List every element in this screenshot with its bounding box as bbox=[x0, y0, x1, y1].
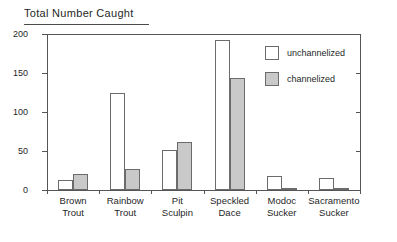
bar-channelized-3 bbox=[230, 78, 245, 190]
y-axis-tick-group: 050100150200 bbox=[0, 0, 47, 242]
y-tick-label-50: 50 bbox=[8, 147, 28, 156]
legend-swatch-unchannelized bbox=[265, 46, 279, 60]
bar-channelized-2 bbox=[177, 142, 192, 190]
bar-group-1 bbox=[99, 34, 151, 190]
bar-channelized-0 bbox=[73, 174, 88, 190]
y-tick-label-150: 150 bbox=[8, 69, 28, 78]
legend-label-channelized: channelized bbox=[287, 74, 335, 84]
bar-channelized-5 bbox=[334, 188, 349, 191]
x-tick-0 bbox=[47, 190, 48, 194]
bar-unchannelized-2 bbox=[162, 150, 177, 190]
y-tick-label-200: 200 bbox=[8, 30, 28, 39]
x-axis-label-group: BrownTroutRainbowTroutPitSculpinSpeckled… bbox=[47, 195, 360, 235]
bar-unchannelized-4 bbox=[267, 176, 282, 190]
x-axis-label-5: SacramentoSucker bbox=[302, 195, 366, 219]
bar-unchannelized-1 bbox=[110, 93, 125, 191]
bar-chart: Total Number Caught 050100150200 BrownTr… bbox=[0, 0, 397, 242]
x-tick-1 bbox=[99, 190, 100, 194]
bar-group-3 bbox=[204, 34, 256, 190]
bar-unchannelized-5 bbox=[319, 178, 334, 190]
y-tick-label-0: 0 bbox=[8, 186, 28, 195]
bar-unchannelized-0 bbox=[58, 180, 73, 190]
x-tick-2 bbox=[151, 190, 152, 194]
x-tick-5 bbox=[308, 190, 309, 194]
bar-group-0 bbox=[47, 34, 99, 190]
y-tick-label-100: 100 bbox=[8, 108, 28, 117]
bar-unchannelized-3 bbox=[215, 40, 230, 190]
legend-swatch-channelized bbox=[265, 72, 279, 86]
x-tick-6 bbox=[360, 190, 361, 194]
bar-channelized-1 bbox=[125, 169, 140, 190]
x-tick-3 bbox=[204, 190, 205, 194]
bar-channelized-4 bbox=[282, 188, 297, 191]
x-tick-4 bbox=[256, 190, 257, 194]
bar-group-2 bbox=[151, 34, 203, 190]
legend-label-unchannelized: unchannelized bbox=[287, 48, 345, 58]
